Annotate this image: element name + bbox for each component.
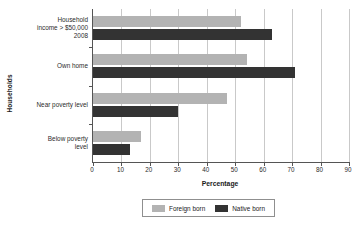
category-label-line: Own home bbox=[16, 62, 88, 70]
gridline bbox=[349, 9, 350, 162]
x-axis-tick-label: 0 bbox=[80, 166, 104, 173]
category-label-line: 2008 bbox=[16, 32, 88, 40]
category-label-line: Below poverty bbox=[16, 135, 88, 143]
plot-area bbox=[92, 9, 349, 163]
x-axis-title: Percentage bbox=[92, 180, 348, 187]
x-axis-tick-label: 40 bbox=[194, 166, 218, 173]
bar-native-born bbox=[93, 29, 272, 40]
y-axis-title-label: Households bbox=[6, 74, 13, 112]
category-label: Householdincome > $50,0002008 bbox=[16, 16, 88, 41]
bar-native-born bbox=[93, 106, 178, 117]
category-label-line: Household bbox=[16, 16, 88, 24]
grouped-bar-chart: Households Householdincome > $50,0002008… bbox=[0, 0, 362, 225]
bar-native-born bbox=[93, 144, 130, 155]
gridline bbox=[292, 9, 293, 162]
legend-swatch-icon bbox=[152, 205, 165, 212]
legend-swatch-icon bbox=[215, 205, 228, 212]
y-axis-title: Households bbox=[2, 58, 16, 128]
legend-label: Foreign born bbox=[169, 205, 205, 212]
bar-foreign-born bbox=[93, 54, 247, 65]
y-axis-tick bbox=[89, 86, 93, 87]
x-axis-tick-label: 20 bbox=[137, 166, 161, 173]
x-axis-tick-label: 30 bbox=[165, 166, 189, 173]
category-label: Near poverty level bbox=[16, 101, 88, 109]
x-axis-tick-label: 90 bbox=[336, 166, 360, 173]
x-axis-tick-label: 50 bbox=[222, 166, 246, 173]
y-axis-tick bbox=[89, 124, 93, 125]
category-label-line: income > $50,000 bbox=[16, 24, 88, 32]
x-axis-tick-label: 10 bbox=[108, 166, 132, 173]
bar-foreign-born bbox=[93, 16, 241, 27]
legend-item[interactable]: Native born bbox=[215, 205, 265, 212]
category-label: Own home bbox=[16, 62, 88, 70]
x-axis-tick-label: 60 bbox=[251, 166, 275, 173]
category-label-line: Near poverty level bbox=[16, 101, 88, 109]
bar-foreign-born bbox=[93, 93, 227, 104]
category-label: Below povertylevel bbox=[16, 135, 88, 151]
bar-foreign-born bbox=[93, 131, 141, 142]
bar-native-born bbox=[93, 67, 295, 78]
x-axis-tick-label: 70 bbox=[279, 166, 303, 173]
category-label-line: level bbox=[16, 143, 88, 151]
gridline bbox=[321, 9, 322, 162]
y-axis-category-labels: Householdincome > $50,0002008Own homeNea… bbox=[16, 9, 90, 162]
x-axis-tick-label: 80 bbox=[308, 166, 332, 173]
chart-legend: Foreign bornNative born bbox=[142, 199, 275, 217]
legend-label: Native born bbox=[232, 205, 265, 212]
y-axis-tick bbox=[89, 47, 93, 48]
legend-item[interactable]: Foreign born bbox=[152, 205, 205, 212]
